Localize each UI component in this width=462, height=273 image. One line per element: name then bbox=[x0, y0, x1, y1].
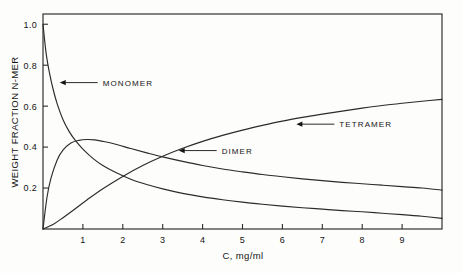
x-tick-label: 2 bbox=[120, 235, 125, 245]
y-axis-title: WEIGHT FRACTION N-MER bbox=[9, 56, 20, 187]
annotation-arrowhead-tetramer bbox=[296, 122, 302, 127]
annotation-label-monomer: MONOMER bbox=[103, 79, 153, 88]
x-tick-label: 1 bbox=[80, 235, 85, 245]
x-axis-ticks bbox=[83, 224, 402, 229]
x-tick-label: 8 bbox=[360, 235, 365, 245]
y-tick-label: 0.8 bbox=[24, 61, 37, 71]
x-tick-label: 5 bbox=[240, 235, 245, 245]
weight-fraction-chart: 0.20.40.60.81.0 123456789 MONOMERTETRAME… bbox=[0, 0, 462, 273]
x-tick-label: 6 bbox=[280, 235, 285, 245]
y-tick-label: 0.6 bbox=[24, 102, 37, 112]
x-tick-label: 7 bbox=[320, 235, 325, 245]
x-tick-label: 3 bbox=[160, 235, 165, 245]
x-tick-label: 9 bbox=[399, 235, 404, 245]
annotation-arrowhead-monomer bbox=[60, 80, 66, 85]
curve-tetramer bbox=[43, 99, 442, 229]
y-tick-label: 1.0 bbox=[24, 20, 37, 30]
x-axis-tick-labels: 123456789 bbox=[80, 235, 405, 245]
curve-annotations: MONOMERTETRAMERDIMER bbox=[60, 79, 392, 156]
annotation-label-dimer: DIMER bbox=[222, 147, 253, 156]
y-tick-label: 0.4 bbox=[24, 142, 37, 152]
x-tick-label: 4 bbox=[200, 235, 205, 245]
annotation-label-tetramer: TETRAMER bbox=[339, 120, 392, 129]
x-axis-title: C, mg/ml bbox=[222, 250, 263, 261]
figure-container: 0.20.40.60.81.0 123456789 MONOMERTETRAME… bbox=[0, 0, 462, 273]
y-tick-label: 0.2 bbox=[24, 183, 37, 193]
y-axis-tick-labels: 0.20.40.60.81.0 bbox=[24, 20, 37, 194]
